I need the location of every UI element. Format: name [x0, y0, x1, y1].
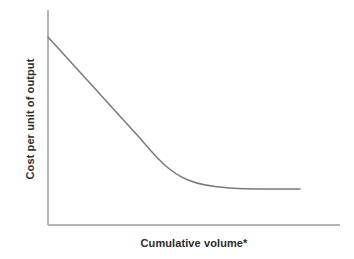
experience-curve-chart: Cost per unit of output Cumulative volum… [0, 0, 354, 259]
chart-plot-area [0, 0, 354, 259]
y-axis-label: Cost per unit of output [25, 24, 36, 214]
x-axis-label: Cumulative volume* [48, 238, 340, 249]
cost-curve-line [48, 37, 300, 189]
